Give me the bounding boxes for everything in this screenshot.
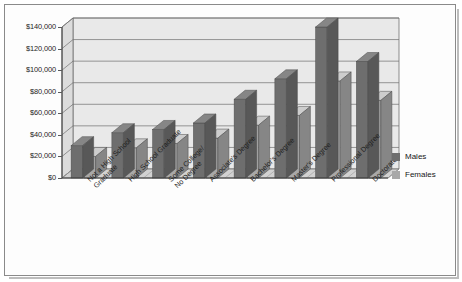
- chart-canvas: [0, 0, 462, 282]
- legend-item-males: Males: [392, 152, 436, 161]
- y-axis-tick-mark: [58, 156, 62, 157]
- y-axis-tick-label: $100,000: [26, 65, 56, 74]
- y-axis-tick-label: $40,000: [30, 130, 56, 139]
- y-axis-tick-mark: [58, 49, 62, 50]
- y-axis-tick-mark: [58, 92, 62, 93]
- bar-chart: $0$20,000$40,000$60,000$80,000$100,000$1…: [0, 0, 462, 282]
- y-axis-tick-mark: [58, 27, 62, 28]
- y-axis-tick-label: $20,000: [30, 151, 56, 160]
- y-axis-tick-mark: [58, 113, 62, 114]
- y-axis-tick-mark: [58, 70, 62, 71]
- y-axis-tick-mark: [58, 135, 62, 136]
- chart-legend: Males Females: [392, 152, 436, 188]
- y-axis-tick-label: $120,000: [26, 44, 56, 53]
- legend-swatch-males: [392, 153, 400, 161]
- y-axis-tick-label: $0: [48, 173, 56, 182]
- legend-swatch-females: [392, 171, 400, 179]
- y-axis-tick-label: $60,000: [30, 108, 56, 117]
- y-axis-tick-label: $140,000: [26, 22, 56, 31]
- legend-item-females: Females: [392, 170, 436, 179]
- legend-label-males: Males: [405, 152, 426, 161]
- y-axis-tick-label: $80,000: [30, 87, 56, 96]
- legend-label-females: Females: [405, 170, 436, 179]
- y-axis-tick-mark: [58, 178, 62, 179]
